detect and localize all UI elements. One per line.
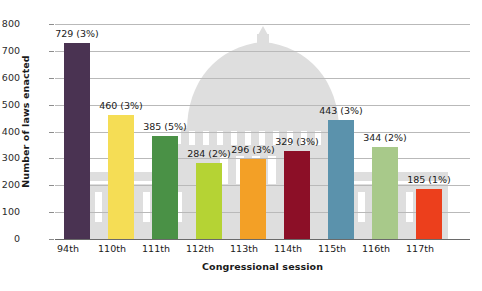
bar-112th — [196, 163, 222, 239]
bar-label-111th: 385 (5%) — [128, 121, 202, 132]
ytick-dash-500 — [49, 105, 54, 106]
ytick-label-800: 800 — [0, 18, 20, 29]
xtick-label-117th: 117th — [392, 243, 448, 254]
ytick-dash-300 — [49, 158, 54, 159]
bar-110th — [108, 115, 134, 239]
plot-area: 729 (3%) 460 (3%) 385 (5%) 284 (2%) 296 … — [55, 24, 470, 239]
bar-label-115th: 443 (3%) — [304, 105, 378, 116]
ytick-label-400: 400 — [0, 126, 20, 137]
bar-label-117th: 185 (1%) — [392, 174, 466, 185]
bar-label-94th: 729 (3%) — [40, 28, 114, 39]
bar-117th — [416, 189, 442, 239]
x-axis-title: Congressional session — [55, 261, 470, 272]
ytick-dash-200 — [49, 185, 54, 186]
bar-114th — [284, 151, 310, 240]
gridline-700 — [55, 51, 470, 52]
ytick-dash-100 — [49, 212, 54, 213]
bar-label-114th: 329 (3%) — [260, 136, 334, 147]
ytick-dash-600 — [49, 78, 54, 79]
ytick-label-100: 100 — [0, 206, 20, 217]
ytick-label-500: 500 — [0, 99, 20, 110]
ytick-label-200: 200 — [0, 179, 20, 190]
y-axis-title: Number of laws enacted — [20, 27, 31, 217]
ytick-label-700: 700 — [0, 45, 20, 56]
ytick-dash-800 — [49, 24, 54, 25]
bar-label-110th: 460 (3%) — [84, 100, 158, 111]
bar-94th — [64, 43, 90, 239]
ytick-label-300: 300 — [0, 152, 20, 163]
ytick-dash-700 — [49, 51, 54, 52]
x-axis-line — [55, 239, 470, 240]
bar-113th — [240, 159, 266, 239]
ytick-dash-0 — [49, 239, 54, 240]
bar-label-116th: 344 (2%) — [348, 132, 422, 143]
ytick-dash-400 — [49, 132, 54, 133]
bar-116th — [372, 147, 398, 240]
ytick-label-600: 600 — [0, 72, 20, 83]
gridline-800 — [55, 24, 470, 25]
bar-chart: Number of laws enacted Congressional ses… — [0, 0, 482, 291]
ytick-label-0: 0 — [0, 233, 20, 244]
gridline-600 — [55, 78, 470, 79]
